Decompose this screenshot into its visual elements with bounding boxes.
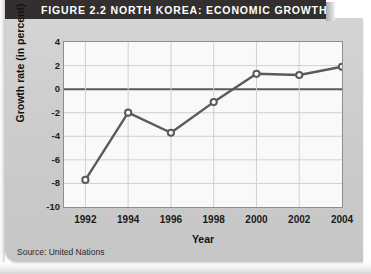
data-point-marker [168,130,174,136]
figure-title-bar: FIGURE 2.2 NORTH KOREA: ECONOMIC GROWTH [5,0,326,19]
x-tick-label: 1994 [106,215,150,225]
data-point-marker [253,71,259,77]
page-edge-bottom [0,262,371,274]
x-tick-label: 1996 [149,215,193,225]
y-tick-label: -4 [38,132,60,142]
x-axis-ticks: 1992199419961998200020022004 [63,215,343,229]
y-tick-label: 0 [38,84,60,94]
y-tick-label: 2 [38,61,60,71]
x-tick-label: 1992 [63,215,107,225]
x-tick-label: 2004 [320,215,364,225]
data-point-marker [125,110,131,116]
figure-root: FIGURE 2.2 NORTH KOREA: ECONOMIC GROWTH … [0,0,371,274]
y-tick-label: -2 [38,108,60,118]
data-point-marker [339,64,342,70]
figure-title: FIGURE 2.2 NORTH KOREA: ECONOMIC GROWTH [5,4,326,16]
y-axis-title: Growth rate (in percent) [14,0,26,138]
x-axis-title: Year [63,233,343,245]
x-tick-label: 2000 [234,215,278,225]
y-tick-label: 4 [38,37,60,47]
data-point-marker [211,99,217,105]
plot-area [63,41,343,208]
title-bar-shadow [326,2,335,21]
y-axis-ticks: 420-2-4-6-8-10 [34,41,60,208]
source-note: Source: United Nations [17,247,104,257]
line-chart-svg [64,42,342,207]
y-tick-label: -8 [38,179,60,189]
x-tick-label: 1998 [192,215,236,225]
data-point-marker [296,72,302,78]
x-tick-label: 2002 [277,215,321,225]
y-tick-label: -6 [38,155,60,165]
y-tick-label: -10 [38,202,60,212]
data-point-marker [82,177,88,183]
